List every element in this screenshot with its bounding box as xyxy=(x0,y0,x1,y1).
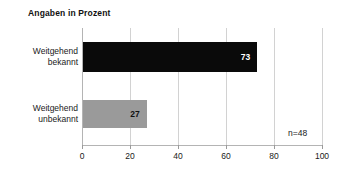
bar-value-label-unbekannt: 27 xyxy=(130,110,146,119)
gridline-80 xyxy=(274,28,275,145)
bar-weitgehend-unbekannt: 27 xyxy=(82,100,147,128)
tick-mark-20 xyxy=(130,145,131,149)
category-label-line-2: bekannt xyxy=(0,57,78,68)
category-label-weitgehend-unbekannt: Weitgehend unbekannt xyxy=(0,103,78,125)
x-tick-label-20: 20 xyxy=(110,151,150,161)
chart-title: Angaben in Prozent xyxy=(28,8,111,18)
x-tick-label-80: 80 xyxy=(254,151,294,161)
x-tick-label-40: 40 xyxy=(158,151,198,161)
x-tick-label-100: 100 xyxy=(302,151,342,161)
bar-value-label-bekannt: 73 xyxy=(241,53,257,62)
bar-weitgehend-bekannt: 73 xyxy=(82,42,257,72)
bar-chart-figure: Angaben in Prozent 73 27 0 20 40 60 80 1… xyxy=(0,0,353,172)
tick-mark-0 xyxy=(82,145,83,149)
y-axis-line xyxy=(82,28,83,146)
category-label-line-1: Weitgehend xyxy=(0,103,78,114)
x-tick-label-60: 60 xyxy=(206,151,246,161)
plot-area: 73 27 xyxy=(82,28,322,145)
gridline-100 xyxy=(322,28,323,145)
category-label-weitgehend-bekannt: Weitgehend bekannt xyxy=(0,46,78,68)
tick-mark-60 xyxy=(226,145,227,149)
sample-size-annotation: n=48 xyxy=(288,128,307,138)
tick-mark-40 xyxy=(178,145,179,149)
category-label-line-1: Weitgehend xyxy=(0,46,78,57)
category-label-line-2: unbekannt xyxy=(0,114,78,125)
x-tick-label-0: 0 xyxy=(62,151,102,161)
tick-mark-100 xyxy=(322,145,323,149)
tick-mark-80 xyxy=(274,145,275,149)
x-axis-line xyxy=(82,145,323,146)
